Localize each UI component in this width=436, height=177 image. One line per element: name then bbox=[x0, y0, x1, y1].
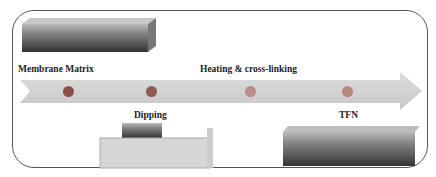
membrane-matrix-image bbox=[22, 18, 156, 52]
step-label: Heating & cross-linking bbox=[200, 64, 297, 74]
step-dot bbox=[146, 86, 157, 97]
step-label: Membrane Matrix bbox=[18, 64, 94, 74]
tfn-membrane-image bbox=[283, 126, 420, 166]
step-dot bbox=[245, 86, 256, 97]
step-label: TFN bbox=[339, 110, 358, 120]
dipping-bath-image bbox=[100, 123, 213, 168]
step-dot bbox=[63, 86, 74, 97]
step-dot bbox=[342, 86, 353, 97]
step-label: Dipping bbox=[134, 110, 167, 120]
